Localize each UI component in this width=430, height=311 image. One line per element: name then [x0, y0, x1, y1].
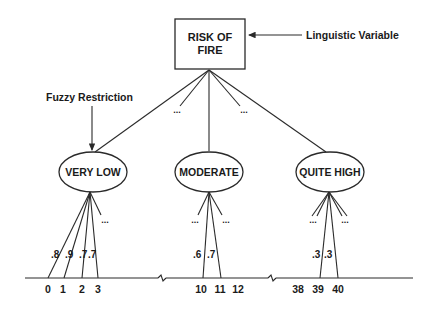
membership-value: .3	[312, 249, 321, 260]
axis-tick-label: 2	[79, 283, 85, 295]
term-node-moderate: MODERATE ... ... .6 .7	[175, 152, 243, 278]
ellipsis-right: ...	[240, 105, 248, 115]
axis-break-icon	[158, 275, 166, 281]
fuzzy-restriction-annotation: Fuzzy Restriction	[46, 91, 133, 150]
axis-tick-label: 3	[95, 283, 101, 295]
ellipsis: ...	[222, 215, 230, 225]
axis-tick-label: 12	[232, 283, 244, 295]
axis-tick-label: 1	[60, 283, 66, 295]
ellipsis: ...	[191, 215, 199, 225]
axis-tick-label: 11	[214, 283, 225, 295]
fuzzy-linguistic-variable-diagram: RISK OF FIRE Linguistic Variable ... ...…	[0, 0, 430, 311]
linguistic-variable-annotation: Linguistic Variable	[249, 29, 399, 41]
base-variable-axis: 0 1 2 3 10 11 12 38 39 40	[25, 275, 413, 295]
membership-value: .7	[88, 249, 97, 260]
ellipsis-left: ...	[173, 105, 181, 115]
axis-tick-label: 39	[312, 283, 324, 295]
ellipsis: ...	[341, 215, 349, 225]
term-node-quite-high: QUITE HIGH ... ... .3 .3	[296, 152, 364, 278]
axis-tick-label: 40	[332, 283, 344, 295]
term-label: VERY LOW	[65, 166, 121, 178]
ellipsis: ...	[101, 215, 109, 225]
membership-value: .7	[79, 249, 88, 260]
term-label: MODERATE	[179, 166, 238, 178]
axis-tick-label: 0	[45, 283, 51, 295]
membership-value: .6	[193, 249, 202, 260]
fuzzy-restriction-label: Fuzzy Restriction	[46, 91, 133, 103]
root-label-line1: RISK OF	[188, 31, 233, 43]
membership-value: .7	[207, 249, 216, 260]
term-node-very-low: VERY LOW ... .8 .9 .7 .7	[48, 152, 127, 278]
root-node-risk-of-fire: RISK OF FIRE	[175, 19, 245, 69]
membership-value: .9	[65, 249, 74, 260]
linguistic-variable-label: Linguistic Variable	[306, 29, 399, 41]
root-branches: ... ...	[95, 70, 326, 152]
root-label-line2: FIRE	[197, 44, 222, 56]
axis-tick-label: 10	[195, 283, 207, 295]
axis-break-icon	[268, 275, 276, 281]
membership-value: .3	[324, 249, 333, 260]
membership-value: .8	[51, 249, 60, 260]
ellipsis: ...	[309, 215, 317, 225]
term-label: QUITE HIGH	[299, 166, 360, 178]
axis-tick-label: 38	[292, 283, 304, 295]
